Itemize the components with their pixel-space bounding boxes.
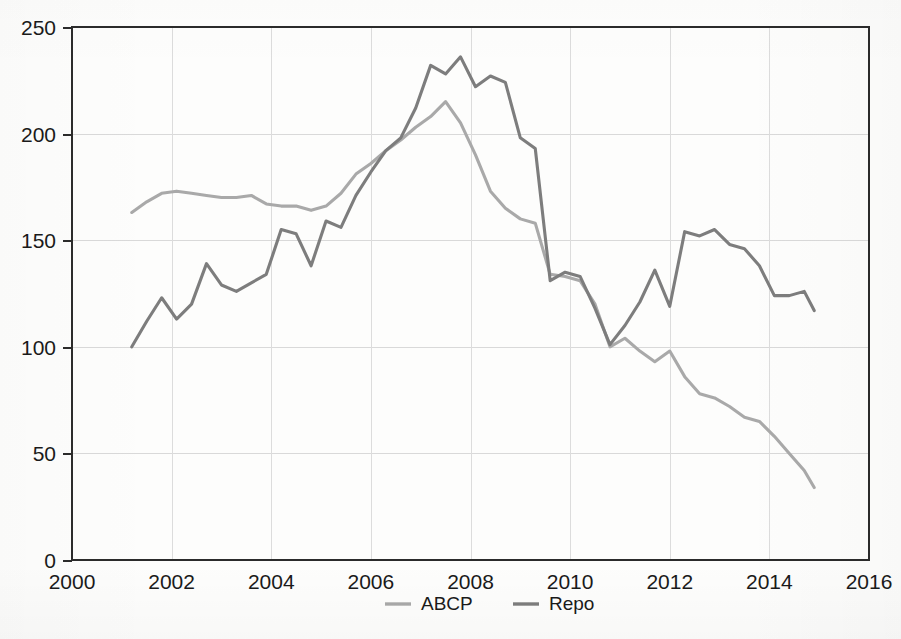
series-line-repo: [132, 57, 814, 347]
series-layer: [132, 57, 814, 488]
y-tick-label: 250: [21, 16, 56, 39]
x-tick-label: 2008: [447, 570, 494, 593]
y-axis-tick-labels: 250200150100500: [21, 16, 56, 572]
y-tick-label: 100: [21, 336, 56, 359]
chart-legend: ABCPRepo: [385, 593, 594, 614]
legend-label-repo: Repo: [549, 593, 594, 614]
y-tick-label: 0: [44, 549, 56, 572]
y-tick-label: 150: [21, 229, 56, 252]
axis-layer: [63, 27, 869, 561]
x-tick-label: 2012: [646, 570, 693, 593]
x-tick-label: 2004: [248, 570, 295, 593]
x-tick-label: 2006: [348, 570, 395, 593]
chart-page: 250200150100500 200020022004200620082010…: [0, 0, 901, 639]
x-tick-label: 2014: [746, 570, 793, 593]
grid-layer: [72, 27, 869, 560]
legend-label-abcp: ABCP: [421, 593, 473, 614]
y-tick-label: 200: [21, 123, 56, 146]
x-axis-tick-labels: 200020022004200620082010201220142016: [49, 570, 893, 593]
series-line-abcp: [132, 102, 814, 488]
line-chart: 250200150100500 200020022004200620082010…: [0, 0, 901, 639]
plot-frame: [72, 27, 869, 560]
x-tick-label: 2000: [49, 570, 96, 593]
x-tick-label: 2010: [547, 570, 594, 593]
x-tick-label: 2002: [148, 570, 195, 593]
y-tick-label: 50: [33, 442, 56, 465]
x-tick-label: 2016: [846, 570, 893, 593]
